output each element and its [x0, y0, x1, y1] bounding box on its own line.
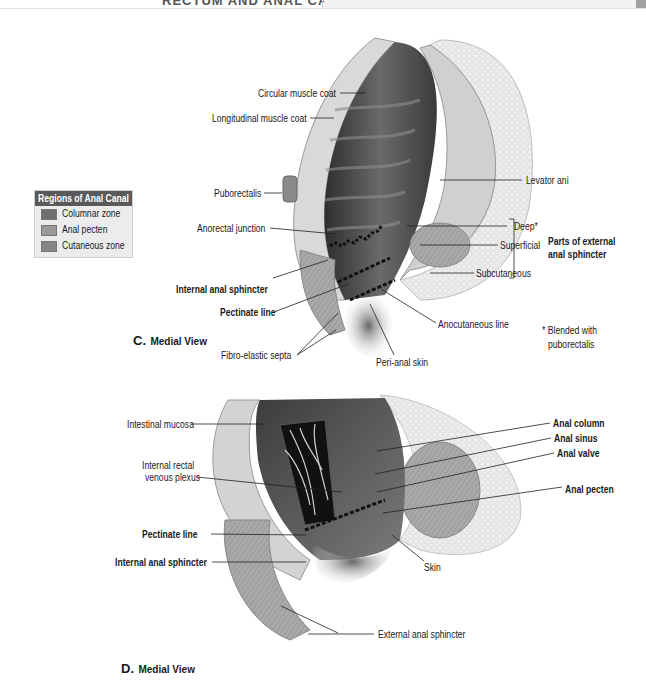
- label-intestinal-mucosa: Intestinal mucosa: [127, 419, 194, 430]
- legend-item-anal-pecten: Anal pecten: [35, 223, 132, 238]
- label-puborectalis: Puborectalis: [214, 188, 261, 199]
- label-parts-of-external-2: anal sphincter: [548, 249, 606, 260]
- label-external-anal-sphincter: External anal sphincter: [378, 629, 465, 640]
- label-superficial: Superficial: [500, 240, 540, 251]
- legend-title: Regions of Anal Canal: [35, 191, 132, 206]
- label-internal-rectal-1: Internal rectal: [142, 460, 194, 471]
- label-anal-pecten: Anal pecten: [565, 484, 614, 495]
- label-longitudinal-muscle-coat: Longitudinal muscle coat: [212, 113, 307, 124]
- footnote-line-1: * Blended with: [542, 325, 597, 336]
- legend-swatch-cutaneous: [41, 241, 57, 252]
- label-subcutaneous: Subcutaneous: [476, 268, 531, 279]
- figure-d-title: D. Medial View: [121, 659, 195, 677]
- legend-swatch-pecten: [41, 225, 57, 236]
- label-anal-column: Anal column: [553, 418, 605, 429]
- label-pectinate-line-d: Pectinate line: [142, 529, 197, 540]
- figure-c-art: [283, 38, 532, 356]
- label-internal-anal-sphincter-d: Internal anal sphincter: [115, 557, 207, 568]
- figure-d-art: [213, 395, 521, 640]
- footnote-line-2: puborectalis: [548, 339, 594, 350]
- label-peri-anal-skin: Peri-anal skin: [376, 357, 428, 368]
- legend-regions-of-anal-canal: Regions of Anal Canal Columnar zone Anal…: [34, 190, 133, 258]
- label-anal-valve: Anal valve: [557, 448, 600, 459]
- label-parts-of-external-1: Parts of external: [548, 236, 615, 247]
- label-circular-muscle-coat: Circular muscle coat: [258, 88, 336, 99]
- label-anal-sinus: Anal sinus: [554, 433, 597, 444]
- label-skin: Skin: [424, 562, 441, 573]
- figure-c-title: C. Medial View: [133, 331, 207, 349]
- legend-item-cutaneous-zone: Cutaneous zone: [35, 239, 132, 254]
- label-fibro-elastic-septa: Fibro-elastic septa: [221, 350, 291, 361]
- label-anorectal-junction: Anorectal junction: [197, 223, 265, 234]
- legend-item-columnar-zone: Columnar zone: [35, 207, 132, 222]
- label-deep: Deep*: [514, 221, 538, 232]
- label-pectinate-line: Pectinate line: [220, 307, 275, 318]
- label-levator-ani: Levator ani: [526, 175, 569, 186]
- label-internal-rectal-2: venous plexus: [145, 472, 200, 483]
- label-anocutaneous-line: Anocutaneous line: [438, 319, 509, 330]
- label-internal-anal-sphincter: Internal anal sphincter: [176, 284, 268, 295]
- legend-swatch-columnar: [41, 209, 57, 220]
